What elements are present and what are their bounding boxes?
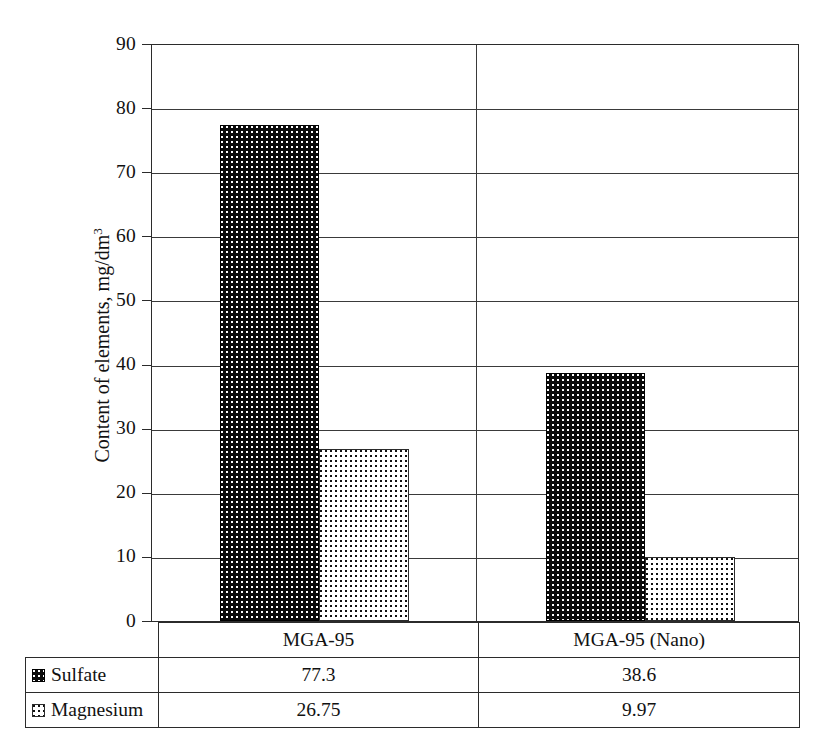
y-tick-mark-10 bbox=[142, 557, 151, 558]
y-tick-label-90: 90 bbox=[90, 34, 136, 54]
value-magnesium-mga-95: 26.75 bbox=[158, 693, 479, 728]
table-row: Magnesium 26.75 9.97 bbox=[26, 693, 800, 728]
y-tick-label-30: 30 bbox=[90, 418, 136, 438]
table-header-row: MGA-95 MGA-95 (Nano) bbox=[26, 623, 800, 658]
bar-sulfate-mga-95 bbox=[220, 125, 319, 621]
y-tick-label-10: 10 bbox=[90, 546, 136, 566]
bar-sulfate-mga-95-nano bbox=[546, 373, 645, 621]
y-tick-mark-40 bbox=[142, 365, 151, 366]
table-header-category-mga-95-nano: MGA-95 (Nano) bbox=[479, 623, 800, 658]
legend-label-magnesium: Magnesium bbox=[51, 699, 143, 720]
legend-swatch-sulfate-icon bbox=[32, 669, 45, 682]
y-tick-mark-50 bbox=[142, 300, 151, 301]
value-sulfate-mga-95-nano: 38.6 bbox=[479, 658, 800, 693]
y-tick-label-80: 80 bbox=[90, 98, 136, 118]
bar-magnesium-mga-95-nano bbox=[645, 557, 735, 621]
y-tick-mark-80 bbox=[142, 108, 151, 109]
table-header-category-mga-95: MGA-95 bbox=[158, 623, 479, 658]
y-tick-label-70: 70 bbox=[90, 162, 136, 182]
gridline-80 bbox=[152, 109, 798, 110]
y-tick-label-40: 40 bbox=[90, 354, 136, 374]
legend-label-sulfate: Sulfate bbox=[51, 664, 106, 685]
table-header-blank-cell bbox=[26, 623, 159, 658]
bar-magnesium-mga-95 bbox=[319, 449, 409, 621]
y-tick-mark-90 bbox=[142, 44, 151, 45]
category-divider bbox=[476, 45, 477, 621]
y-tick-mark-60 bbox=[142, 236, 151, 237]
y-tick-label-60: 60 bbox=[90, 226, 136, 246]
chart-figure: Content of elements, mg/dm3 90 80 70 60 … bbox=[0, 0, 827, 742]
legend-item-sulfate: Sulfate bbox=[26, 658, 159, 693]
data-table: MGA-95 MGA-95 (Nano) Sulfate 77.3 38.6 M… bbox=[25, 622, 800, 728]
table-row: Sulfate 77.3 38.6 bbox=[26, 658, 800, 693]
y-tick-mark-70 bbox=[142, 172, 151, 173]
value-magnesium-mga-95-nano: 9.97 bbox=[479, 693, 800, 728]
y-tick-mark-20 bbox=[142, 493, 151, 494]
legend-item-magnesium: Magnesium bbox=[26, 693, 159, 728]
y-tick-mark-30 bbox=[142, 429, 151, 430]
value-sulfate-mga-95: 77.3 bbox=[158, 658, 479, 693]
plot-area bbox=[151, 44, 799, 622]
y-tick-label-50: 50 bbox=[90, 290, 136, 310]
legend-swatch-magnesium-icon bbox=[32, 704, 45, 717]
y-tick-label-20: 20 bbox=[90, 482, 136, 502]
